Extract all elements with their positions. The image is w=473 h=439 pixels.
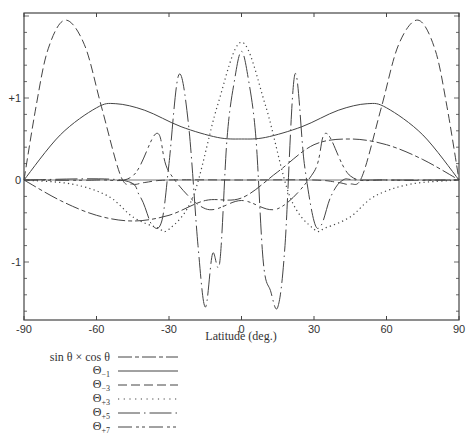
legend-label: Θ+7: [30, 419, 118, 435]
line-chart: -90-60-300306090 +10-1 Latitude (deg.): [0, 0, 473, 345]
series-line: [24, 42, 459, 231]
legend: sin θ × cos θ Θ−1 Θ−3 Θ+3 Θ+5 Θ+7: [30, 350, 178, 434]
y-axis-tick-labels: +10-1: [8, 92, 21, 268]
y-tick-label: 0: [15, 174, 21, 186]
y-tick-label: -1: [11, 256, 21, 268]
x-axis-title: Latitude (deg.): [205, 329, 276, 343]
x-tick-label: -60: [89, 323, 105, 335]
y-tick-label: +1: [8, 92, 21, 104]
legend-swatch: [118, 422, 178, 432]
legend-swatch: [118, 352, 178, 362]
x-tick-label: 60: [380, 323, 392, 335]
x-tick-label: 30: [308, 323, 320, 335]
legend-item-theta-p7: Θ+7: [30, 420, 178, 434]
x-tick-label: -30: [161, 323, 177, 335]
series-lines: [24, 20, 459, 309]
legend-swatch: [118, 366, 178, 376]
x-tick-label: 90: [453, 323, 465, 335]
legend-swatch: [118, 380, 178, 390]
series-line: [24, 103, 459, 180]
series-line: [24, 20, 459, 184]
legend-swatch: [118, 394, 178, 404]
x-tick-label: -90: [16, 323, 32, 335]
series-line: [24, 133, 459, 209]
legend-swatch: [118, 408, 178, 418]
